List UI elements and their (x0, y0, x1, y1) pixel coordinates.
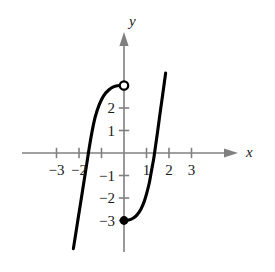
y-tick-label: 1 (108, 123, 116, 138)
graph-canvas (0, 0, 275, 272)
y-axis-label: y (129, 14, 136, 29)
x-tick-label: −2 (71, 163, 87, 178)
y-axis-arrow-icon (119, 32, 128, 46)
curves-group (73, 73, 165, 249)
filled-endpoint-marker (120, 216, 129, 225)
y-tick-label: −1 (99, 168, 115, 183)
x-axis-label: x (246, 145, 253, 160)
open-endpoint-marker (120, 81, 128, 89)
x-axis-arrow-icon (224, 148, 238, 157)
x-tick-label: −3 (49, 163, 65, 178)
curve-right-branch (124, 73, 166, 220)
x-tick-label: 1 (143, 163, 151, 178)
x-tick-label: 3 (188, 163, 196, 178)
graph-figure: x y −3−2123 21−1−2−3 (0, 0, 275, 272)
x-tick-label: 2 (165, 163, 173, 178)
y-tick-label: −2 (99, 191, 115, 206)
y-tick-label: 2 (108, 101, 116, 116)
y-tick-label: −3 (99, 213, 115, 228)
